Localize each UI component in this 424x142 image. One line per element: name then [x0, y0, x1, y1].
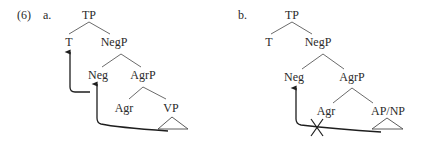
branch-negp-agrp-b	[323, 54, 344, 69]
branch-agrp-agr-b	[333, 88, 352, 103]
triangle-icon	[372, 118, 403, 129]
node-agrp-a: AgrP	[130, 68, 156, 82]
node-neg-b: Neg	[284, 70, 304, 84]
node-tp-b: TP	[285, 8, 299, 22]
node-agr-a: Agr	[115, 101, 134, 115]
example-number: (6)	[17, 8, 31, 22]
node-neg-a: Neg	[88, 68, 108, 82]
syntax-tree-figure: (6) a. TP T NegP Neg AgrP Agr VP b.	[0, 0, 424, 142]
branch-agrp-vp-a	[143, 87, 166, 99]
branch-agrp-agr-a	[129, 87, 143, 99]
movement-arrow-neg-to-t	[70, 52, 90, 92]
branch-negp-neg-a	[102, 54, 121, 67]
movement-arrow-apnp-to-neg	[296, 88, 381, 132]
branch-tp-negp-a	[89, 22, 110, 34]
triangle-icon	[158, 117, 188, 129]
branch-negp-neg-b	[302, 54, 323, 69]
node-negp-b: NegP	[305, 35, 332, 49]
tree-panel-a: a. TP T NegP Neg AgrP Agr VP	[43, 8, 188, 131]
branch-tp-t-a	[69, 22, 89, 34]
node-agrp-b: AgrP	[339, 70, 365, 84]
node-negp-a: NegP	[101, 35, 128, 49]
tree-panel-b: b. TP T NegP Neg AgrP Agr AP/NP	[238, 8, 405, 136]
node-apnp-b: AP/NP	[371, 104, 405, 118]
branch-agrp-apnp-b	[352, 88, 373, 103]
node-t-a: T	[65, 35, 73, 49]
node-agr-b: Agr	[317, 104, 336, 118]
tree-diagram-canvas: (6) a. TP T NegP Neg AgrP Agr VP b.	[0, 0, 424, 142]
panel-a-label: a.	[43, 8, 51, 22]
branch-tp-t-b	[271, 22, 292, 34]
branch-tp-negp-b	[292, 22, 312, 34]
branch-negp-agrp-a	[121, 54, 141, 67]
panel-b-label: b.	[238, 8, 247, 22]
node-t-b: T	[265, 35, 273, 49]
node-tp-a: TP	[82, 8, 96, 22]
node-vp-a: VP	[163, 101, 179, 115]
